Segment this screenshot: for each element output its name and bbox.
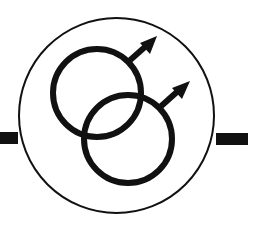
symbol-illustration (0, 0, 263, 230)
figure: Two interlocking male symbols inside a c… (0, 0, 263, 230)
background (0, 0, 263, 230)
right-bar (216, 133, 248, 145)
left-bar (0, 132, 18, 144)
